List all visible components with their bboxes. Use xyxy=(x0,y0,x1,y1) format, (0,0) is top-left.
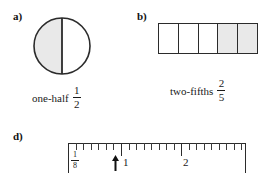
arrow-up-icon xyxy=(111,155,120,171)
ruler-tick xyxy=(98,143,99,150)
part-label-d: d) xyxy=(13,131,23,142)
ruler-tick-inch-2 xyxy=(181,143,182,156)
bar-cell-2 xyxy=(179,24,199,53)
part-label-a: a) xyxy=(13,11,22,22)
fraction-numerator: 1 xyxy=(72,151,78,160)
fraction-one-eighth: 1 8 xyxy=(71,151,79,170)
ruler-tick xyxy=(136,143,137,150)
ruler-tick xyxy=(113,143,114,150)
ruler-tick xyxy=(129,143,130,150)
ruler-tick xyxy=(226,143,227,150)
ruler-tick xyxy=(144,143,145,150)
caption-b-words: two-fifths xyxy=(170,85,213,97)
ruler-tick-inch-1 xyxy=(121,143,122,156)
ruler-inch-label-2: 2 xyxy=(183,156,189,168)
fraction-denominator: 8 xyxy=(72,161,78,170)
part-label-b: b) xyxy=(137,11,147,22)
ruler-tick xyxy=(189,143,190,150)
fraction-numerator: 1 xyxy=(73,85,81,97)
half-shaded-circle-diagram xyxy=(33,17,91,75)
bar-cell-1 xyxy=(159,24,179,53)
ruler-tick xyxy=(106,143,107,150)
fraction-denominator: 5 xyxy=(218,91,226,103)
bar-cell-3 xyxy=(199,24,219,53)
bar-cell-5 xyxy=(238,24,257,53)
ruler-tick xyxy=(91,143,92,150)
fifths-bar-diagram xyxy=(158,23,258,54)
caption-b: two-fifths 2 5 xyxy=(170,78,225,103)
caption-a-words: one-half xyxy=(32,92,69,104)
fraction-one-half: 1 2 xyxy=(73,85,81,110)
ruler-tick xyxy=(159,143,160,150)
ruler-tick xyxy=(211,143,212,150)
ruler-tick xyxy=(241,143,242,150)
ruler-tick xyxy=(196,143,197,150)
ruler-tick xyxy=(174,143,175,150)
ruler-tick xyxy=(219,143,220,150)
ruler-tick xyxy=(234,143,235,150)
circle-shaded-half xyxy=(34,18,62,74)
fraction-numerator: 2 xyxy=(218,78,226,90)
ruler-tick xyxy=(76,143,77,150)
caption-a: one-half 1 2 xyxy=(32,85,81,110)
ruler-tick xyxy=(151,143,152,150)
fraction-two-fifths: 2 5 xyxy=(217,78,225,103)
ruler-inch-label-1: 1 xyxy=(123,156,129,168)
ruler-tick xyxy=(166,143,167,150)
ruler-tick xyxy=(204,143,205,150)
ruler-diagram: 1 8 1 2 xyxy=(68,143,246,173)
bar-cell-4 xyxy=(218,24,238,53)
fraction-denominator: 2 xyxy=(73,98,81,110)
ruler-tick xyxy=(83,143,84,150)
figure-canvas: a) one-half 1 2 b) two-fifths 2 5 d) xyxy=(0,0,267,173)
